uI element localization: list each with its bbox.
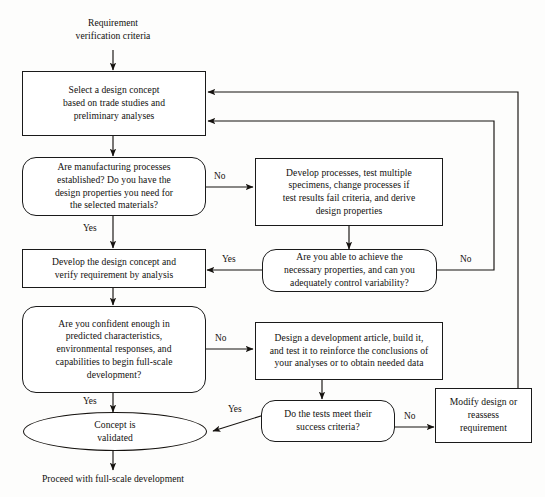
edge-label-manufacturing-no-text: No bbox=[214, 171, 225, 181]
edge-label-tests-no-text: No bbox=[404, 411, 415, 421]
process-select-design-concept[interactable]: Select a design concept based on trade s… bbox=[22, 71, 206, 136]
decision-manufacturing-processes[interactable]: Are manufacturing processes established?… bbox=[22, 157, 206, 216]
edge-label-tests-yes: Yes bbox=[228, 404, 242, 414]
end-label-text: Proceed with full-scale development bbox=[37, 473, 189, 486]
terminator-concept-validated[interactable]: Concept is validated bbox=[23, 412, 207, 451]
process-select-design-concept-text: Select a design concept based on trade s… bbox=[58, 84, 170, 122]
decision-achieve-properties[interactable]: Are you able to achieve the necessary pr… bbox=[262, 249, 437, 292]
process-development-article[interactable]: Design a development article, build it, … bbox=[255, 322, 443, 380]
edge-label-manufacturing-yes-text: Yes bbox=[83, 223, 97, 233]
edge-label-achieve-no-text: No bbox=[460, 254, 471, 264]
process-develop-processes-text: Develop processes, test multiple specime… bbox=[278, 167, 420, 218]
edge-label-achieve-yes-text: Yes bbox=[222, 254, 236, 264]
edge-tests-yes bbox=[213, 415, 264, 431]
decision-tests-success-criteria[interactable]: Do the tests meet their success criteria… bbox=[261, 400, 395, 442]
decision-achieve-properties-text: Are you able to achieve the necessary pr… bbox=[279, 251, 420, 289]
edge-label-achieve-no: No bbox=[460, 254, 471, 264]
edge-label-confidence-no: No bbox=[215, 333, 226, 343]
edge-label-confidence-no-text: No bbox=[215, 333, 226, 343]
process-modify-design[interactable]: Modify design or reassess requirement bbox=[435, 388, 532, 443]
end-label: Proceed with full-scale development bbox=[13, 470, 213, 488]
terminator-concept-validated-text: Concept is validated bbox=[89, 419, 140, 445]
edge-label-manufacturing-no: No bbox=[214, 171, 225, 181]
process-develop-processes[interactable]: Develop processes, test multiple specime… bbox=[255, 158, 443, 226]
process-modify-design-text: Modify design or reassess requirement bbox=[445, 396, 522, 434]
start-label-text: Requirement verification criteria bbox=[71, 17, 156, 43]
process-develop-design-concept[interactable]: Develop the design concept and verify re… bbox=[22, 249, 206, 288]
decision-manufacturing-processes-text: Are manufacturing processes established?… bbox=[50, 161, 178, 212]
decision-confidence-full-scale[interactable]: Are you confident enough in predicted ch… bbox=[22, 306, 206, 393]
decision-confidence-full-scale-text: Are you confident enough in predicted ch… bbox=[51, 318, 178, 382]
process-development-article-text: Design a development article, build it, … bbox=[265, 332, 434, 370]
start-label: Requirement verification criteria bbox=[46, 12, 180, 48]
edge-label-manufacturing-yes: Yes bbox=[83, 223, 97, 233]
flowchart-canvas: Requirement verification criteria Select… bbox=[0, 0, 545, 497]
decision-tests-success-criteria-text: Do the tests meet their success criteria… bbox=[279, 408, 376, 434]
edge-label-tests-no: No bbox=[404, 411, 415, 421]
edge-label-achieve-yes: Yes bbox=[222, 254, 236, 264]
edge-label-confidence-yes-text: Yes bbox=[83, 396, 97, 406]
edge-label-confidence-yes: Yes bbox=[83, 396, 97, 406]
edge-label-tests-yes-text: Yes bbox=[228, 404, 242, 414]
process-develop-design-concept-text: Develop the design concept and verify re… bbox=[47, 256, 181, 282]
